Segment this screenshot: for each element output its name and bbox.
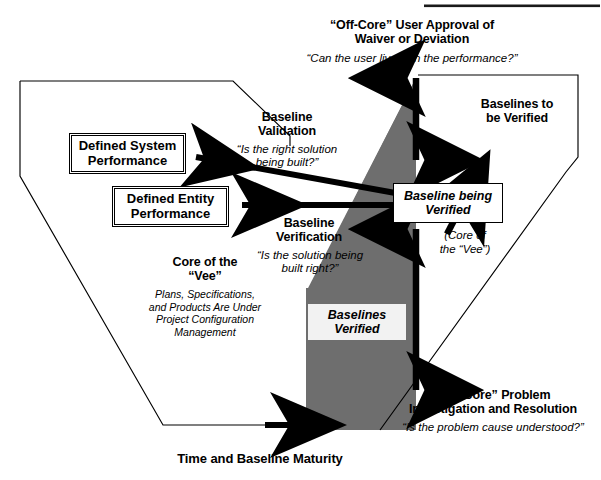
defined-entity-performance-line1: Defined Entity — [127, 192, 214, 207]
time-maturity-label: Time and Baseline Maturity — [120, 452, 400, 467]
top-divider-rule — [424, 5, 600, 8]
core-of-vee-heading-line2: “Vee” — [150, 269, 260, 283]
baselines-verified-box[interactable]: Baselines Verified — [308, 304, 406, 340]
baselines-to-be-verified-line2: be Verified — [456, 111, 578, 125]
baseline-validation-heading-line2: Validation — [222, 124, 352, 138]
offcore-approval-heading-line2: Waiver or Deviation — [272, 32, 552, 46]
core-of-vee-detail-line3: Project Configuration — [140, 313, 270, 326]
baseline-being-verified-box[interactable]: Baseline being Verified — [393, 183, 503, 223]
defined-entity-performance-label: Defined Entity Performance — [127, 192, 214, 221]
baseline-verification-heading-line1: Baseline — [242, 216, 376, 230]
core-of-vee-note-line2: the “Vee”) — [424, 243, 506, 257]
offcore-problem-question: “Is the problem cause understood?” — [385, 421, 601, 434]
defined-system-performance-label: Defined System Performance — [79, 139, 177, 168]
core-of-vee-heading: Core of the “Vee” — [150, 255, 260, 283]
defined-entity-performance-box[interactable]: Defined Entity Performance — [112, 186, 229, 227]
baseline-validation-question-line2: being built?” — [212, 156, 362, 169]
baselines-verified-line2: Verified — [328, 322, 386, 337]
baselines-verified-line1: Baselines — [328, 308, 386, 323]
baselines-to-be-verified-line1: Baselines to — [456, 97, 578, 111]
offcore-problem-heading-line1: “Off-Core” Problem — [385, 388, 601, 402]
defined-system-performance-box[interactable]: Defined System Performance — [69, 133, 186, 174]
offcore-approval-question: “Can the user live with the performance?… — [272, 52, 552, 65]
defined-entity-performance-line2: Performance — [127, 207, 214, 222]
baseline-validation-question-line1: “Is the right solution — [212, 143, 362, 156]
offcore-problem-heading-line2: Investigation and Resolution — [385, 402, 601, 416]
offcore-approval-heading: “Off-Core” User Approval of Waiver or De… — [272, 18, 552, 46]
offcore-problem-heading: “Off-Core” Problem Investigation and Res… — [385, 388, 601, 416]
core-of-vee-note-line1: (Core of — [424, 229, 506, 243]
baseline-validation-heading-line1: Baseline — [222, 110, 352, 124]
defined-system-performance-line1: Defined System — [79, 139, 177, 154]
baseline-being-verified-label: Baseline being Verified — [404, 189, 492, 218]
offcore-approval-heading-line1: “Off-Core” User Approval of — [272, 18, 552, 32]
defined-system-performance-line2: Performance — [79, 154, 177, 169]
baseline-being-verified-line1: Baseline being — [404, 189, 492, 203]
baseline-validation-heading: Baseline Validation — [222, 110, 352, 138]
core-of-vee-detail-line2: and Products Are Under — [140, 301, 270, 314]
core-of-vee-note: (Core of the “Vee”) — [424, 229, 506, 257]
core-of-vee-heading-line1: Core of the — [150, 255, 260, 269]
core-of-vee-detail: Plans, Specifications, and Products Are … — [140, 288, 270, 338]
baseline-being-verified-line2: Verified — [404, 203, 492, 217]
vee-diagram: “Off-Core” User Approval of Waiver or De… — [0, 0, 601, 480]
baselines-verified-label: Baselines Verified — [328, 308, 386, 337]
core-of-vee-detail-line1: Plans, Specifications, — [140, 288, 270, 301]
baseline-verification-heading-line2: Verification — [242, 230, 376, 244]
baseline-validation-question: “Is the right solution being built?” — [212, 143, 362, 169]
baselines-to-be-verified-label: Baselines to be Verified — [456, 97, 578, 125]
baseline-verification-heading: Baseline Verification — [242, 216, 376, 244]
core-of-vee-detail-line4: Management — [140, 326, 270, 339]
